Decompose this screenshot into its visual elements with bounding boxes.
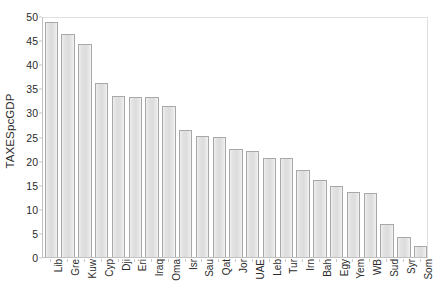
x-axis-tick-mark	[218, 259, 219, 262]
x-axis-tick-label: Eri	[138, 259, 148, 299]
bar	[280, 158, 293, 257]
x-axis-tick-label: Bah	[323, 259, 333, 299]
y-axis: 05101520253035404550	[18, 17, 42, 258]
x-axis-tick-mark	[134, 259, 135, 262]
x-axis-tick-mark	[336, 259, 337, 262]
bar	[330, 186, 343, 257]
y-axis-title-label: TAXESpcGDP	[4, 94, 16, 169]
x-axis-tick-mark	[386, 259, 387, 262]
x-axis-tick-label: Egy	[340, 259, 350, 299]
plot-area	[42, 17, 428, 258]
bar	[380, 224, 393, 257]
x-axis-tick-mark	[352, 259, 353, 262]
bar	[414, 246, 427, 257]
x-axis-tick-mark	[235, 259, 236, 262]
x-axis-tick-label: Isr	[189, 259, 199, 299]
x-axis-tick-label: Som	[424, 259, 434, 299]
bar	[229, 149, 242, 257]
x-axis-tick-label: Oma	[172, 259, 182, 299]
x-axis-tick-label: WB	[373, 259, 383, 299]
y-axis-tick-label: 25	[26, 132, 38, 143]
bar	[313, 180, 326, 257]
bar	[347, 192, 360, 257]
bar	[45, 22, 58, 257]
y-axis-tick-label: 30	[26, 108, 38, 119]
y-axis-tick-label: 50	[26, 12, 38, 23]
y-axis-title: TAXESpcGDP	[0, 0, 20, 262]
x-axis-tick-mark	[168, 259, 169, 262]
bar	[129, 97, 142, 258]
x-axis-tick-label: Lib	[54, 259, 64, 299]
x-axis-tick-label: Irn	[306, 259, 316, 299]
bar-chart: TAXESpcGDP 05101520253035404550 LibGreKu…	[0, 0, 444, 302]
bar	[196, 136, 209, 257]
y-axis-tick-label: 45	[26, 36, 38, 47]
x-axis-tick-label: Dji	[122, 259, 132, 299]
x-axis-tick-mark	[201, 259, 202, 262]
x-axis-tick-label: Jor	[239, 259, 249, 299]
bars-layer	[43, 18, 427, 257]
x-axis-tick-label: Cyp	[105, 259, 115, 299]
x-axis-tick-mark	[84, 259, 85, 262]
bar	[364, 193, 377, 257]
x-axis-tick-mark	[50, 259, 51, 262]
y-axis-tick-label: 15	[26, 180, 38, 191]
x-axis-tick-label: Gre	[71, 259, 81, 299]
x-axis-tick-mark	[302, 259, 303, 262]
y-axis-tick-label: 20	[26, 156, 38, 167]
bar	[397, 237, 410, 257]
x-axis-tick-label: Kuw	[88, 259, 98, 299]
x-axis-tick-mark	[185, 259, 186, 262]
y-axis-tick-label: 35	[26, 84, 38, 95]
x-axis-tick-label: UAE	[256, 259, 266, 299]
x-axis-tick-mark	[369, 259, 370, 262]
bar	[112, 96, 125, 257]
bar	[296, 170, 309, 257]
x-axis-tick-mark	[252, 259, 253, 262]
bar	[95, 83, 108, 257]
y-axis-tick-label: 10	[26, 205, 38, 216]
y-axis-tick-label: 5	[32, 229, 38, 240]
x-axis-tick-label: Syr	[407, 259, 417, 299]
x-axis-tick-label: Leb	[273, 259, 283, 299]
x-axis-tick-mark	[269, 259, 270, 262]
x-axis-tick-mark	[67, 259, 68, 262]
bar	[263, 158, 276, 257]
bar	[162, 106, 175, 257]
x-axis-tick-mark	[101, 259, 102, 262]
x-axis-tick-mark	[403, 259, 404, 262]
x-axis-tick-mark	[118, 259, 119, 262]
bar	[61, 34, 74, 257]
x-axis-tick-label: Iraq	[155, 259, 165, 299]
x-axis: LibGreKuwCypDjiEriIraqOmaIsrSauQatJorUAE…	[42, 259, 428, 302]
x-axis-tick-label: Yem	[356, 259, 366, 299]
x-axis-tick-mark	[319, 259, 320, 262]
x-axis-tick-mark	[285, 259, 286, 262]
bar	[179, 130, 192, 257]
bar	[145, 97, 158, 257]
bar	[246, 151, 259, 257]
y-axis-tick-label: 40	[26, 60, 38, 71]
x-axis-tick-label: Tur	[289, 259, 299, 299]
bar	[78, 44, 91, 257]
x-axis-tick-mark	[420, 259, 421, 262]
x-axis-tick-label: Qat	[222, 259, 232, 299]
x-axis-tick-label: Sud	[390, 259, 400, 299]
y-axis-tick-label: 0	[32, 253, 38, 264]
bar	[213, 137, 226, 257]
x-axis-tick-mark	[151, 259, 152, 262]
x-axis-tick-label: Sau	[205, 259, 215, 299]
